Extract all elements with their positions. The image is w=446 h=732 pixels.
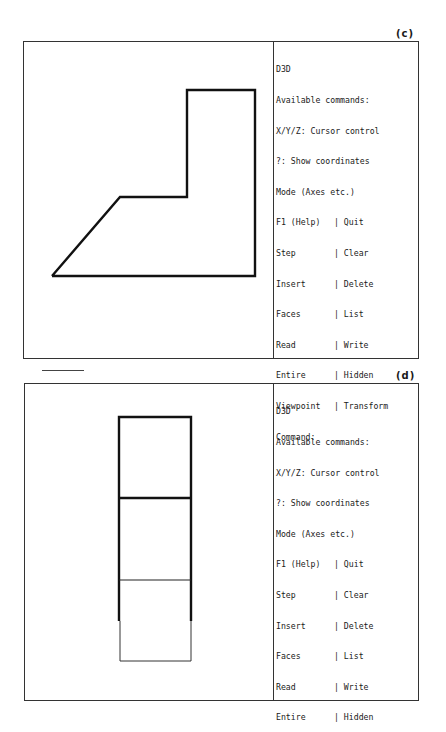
cmd-quit[interactable]: Quit (344, 217, 364, 227)
cmd-faces[interactable]: Faces (276, 309, 334, 319)
cmd-hidden[interactable]: Hidden (344, 370, 374, 380)
command-row: F1 (Help)| Quit (276, 217, 418, 227)
command-console-c: D3D Available commands: X/Y/Z: Cursor co… (274, 42, 418, 358)
console-line: Mode (Axes etc.) (276, 187, 418, 197)
cmd-delete[interactable]: Delete (344, 279, 374, 289)
command-row: Read| Write (276, 340, 418, 350)
app-title: D3D (276, 64, 418, 74)
console-header: Available commands: (276, 437, 418, 447)
d3d-window-c: D3D Available commands: X/Y/Z: Cursor co… (23, 41, 419, 359)
cmd-entire[interactable]: Entire (276, 370, 334, 380)
cmd-help[interactable]: F1 (Help) (276, 217, 334, 227)
command-row: Insert| Delete (276, 279, 418, 289)
panel-c-label: (c) (396, 28, 414, 39)
cmd-read[interactable]: Read (276, 340, 334, 350)
command-console-d: D3D Available commands: X/Y/Z: Cursor co… (274, 384, 418, 700)
stepped-profile-drawing (24, 42, 273, 358)
panel-d-label: (d) (396, 370, 415, 381)
console-header: Available commands: (276, 95, 418, 105)
cmd-read[interactable]: Read (276, 682, 334, 692)
cmd-help[interactable]: F1 (Help) (276, 559, 334, 569)
app-title: D3D (276, 406, 418, 416)
cmd-clear[interactable]: Clear (344, 248, 369, 258)
cmd-step[interactable]: Step (276, 590, 334, 600)
command-row: Faces| List (276, 309, 418, 319)
stacked-rectangles-drawing (25, 384, 273, 700)
console-line: ?: Show coordinates (276, 156, 418, 166)
console-line: X/Y/Z: Cursor control (276, 126, 418, 136)
command-row: F1 (Help)| Quit (276, 559, 418, 569)
cmd-list[interactable]: List (344, 309, 364, 319)
cmd-faces[interactable]: Faces (276, 651, 334, 661)
console-line: X/Y/Z: Cursor control (276, 468, 418, 478)
cmd-write[interactable]: Write (344, 340, 369, 350)
cmd-insert[interactable]: Insert (276, 279, 334, 289)
console-line: ?: Show coordinates (276, 498, 418, 508)
cmd-quit[interactable]: Quit (344, 559, 364, 569)
cmd-entire[interactable]: Entire (276, 712, 334, 722)
viewport-d[interactable] (25, 384, 274, 700)
command-row: Entire| Hidden (276, 712, 418, 722)
command-row: Insert| Delete (276, 621, 418, 631)
divider-mark (42, 370, 84, 371)
cmd-clear[interactable]: Clear (344, 590, 369, 600)
command-row: Step| Clear (276, 590, 418, 600)
cmd-insert[interactable]: Insert (276, 621, 334, 631)
command-row: Read| Write (276, 682, 418, 692)
cmd-list[interactable]: List (344, 651, 364, 661)
viewport-c[interactable] (24, 42, 274, 358)
command-row: Faces| List (276, 651, 418, 661)
cmd-write[interactable]: Write (344, 682, 369, 692)
d3d-window-d: D3D Available commands: X/Y/Z: Cursor co… (24, 383, 419, 701)
cmd-hidden[interactable]: Hidden (344, 712, 374, 722)
console-line: Mode (Axes etc.) (276, 529, 418, 539)
cmd-step[interactable]: Step (276, 248, 334, 258)
cmd-delete[interactable]: Delete (344, 621, 374, 631)
command-row: Step| Clear (276, 248, 418, 258)
